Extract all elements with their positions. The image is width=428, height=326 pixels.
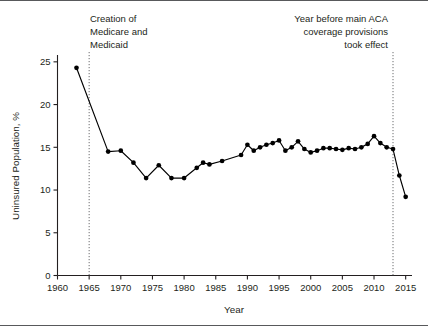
data-point: [264, 142, 269, 147]
data-point: [403, 195, 408, 200]
data-point: [302, 147, 307, 152]
x-tick-label: 1960: [47, 282, 68, 293]
data-point: [327, 146, 332, 151]
x-tick-label: 1970: [110, 282, 131, 293]
y-tick-label: 0: [45, 270, 50, 281]
data-point: [74, 65, 79, 70]
annotation-right-line2: coverage provisions: [304, 26, 389, 37]
axes-group: [58, 55, 413, 276]
annotation-aca-coverage: Year before main ACA coverage provisions…: [294, 13, 388, 50]
y-tick-label: 15: [40, 142, 51, 153]
data-point: [182, 176, 187, 181]
data-point: [106, 149, 111, 154]
x-tick-label: 1965: [79, 282, 100, 293]
data-point: [353, 147, 358, 152]
x-tick-label: 1980: [174, 282, 195, 293]
x-tick-label: 1975: [142, 282, 163, 293]
y-axis-title: Uninsured Population, %: [10, 112, 21, 220]
data-point: [239, 153, 244, 158]
x-tick-label: 1985: [205, 282, 226, 293]
data-point: [308, 150, 313, 155]
data-point: [118, 148, 123, 153]
data-point: [156, 163, 161, 168]
x-axis-title: Year: [224, 304, 245, 315]
figure-container: 0510152025 19601965197019751980198519901…: [0, 0, 428, 326]
x-tick-label: 2005: [332, 282, 353, 293]
data-point: [201, 160, 206, 165]
data-point: [315, 148, 320, 153]
y-tick-label: 10: [40, 184, 51, 195]
data-point: [384, 145, 389, 150]
data-point: [207, 162, 212, 167]
annotation-right-line3: took effect: [344, 39, 388, 50]
x-tick-label: 1990: [237, 282, 258, 293]
data-point: [372, 134, 377, 139]
x-tick-label: 2010: [363, 282, 384, 293]
y-tick-label: 20: [40, 99, 51, 110]
annotation-left-line3: Medicaid: [90, 39, 128, 50]
y-axis-ticks: 0510152025: [40, 56, 58, 281]
annotation-right-line1: Year before main ACA: [294, 13, 388, 24]
y-tick-label: 25: [40, 56, 51, 67]
data-point: [144, 176, 149, 181]
data-point: [378, 141, 383, 146]
x-tick-label: 1995: [268, 282, 289, 293]
data-point: [289, 145, 294, 150]
data-point: [296, 139, 301, 144]
annotation-left-line2: Medicare and: [90, 26, 148, 37]
data-point: [365, 142, 370, 147]
y-tick-label: 5: [45, 227, 50, 238]
data-point: [359, 145, 364, 150]
data-point: [270, 141, 275, 146]
data-point: [321, 146, 326, 151]
x-tick-label: 2000: [300, 282, 321, 293]
data-point: [258, 145, 263, 150]
x-tick-label: 2015: [395, 282, 416, 293]
data-point: [169, 176, 174, 181]
x-axis-ticks: 1960196519701975198019851990199520002005…: [47, 276, 416, 293]
annotation-medicare-medicaid: Creation of Medicare and Medicaid: [90, 13, 148, 50]
data-point: [131, 160, 136, 165]
data-point: [397, 173, 402, 178]
data-point: [220, 159, 225, 164]
data-point: [340, 148, 345, 153]
data-point: [391, 147, 396, 152]
line-chart: 0510152025 19601965197019751980198519901…: [0, 0, 428, 326]
data-point: [194, 165, 199, 170]
data-point: [277, 138, 282, 143]
annotation-left-line1: Creation of: [90, 13, 137, 24]
series-group: [74, 65, 408, 199]
data-point: [346, 146, 351, 151]
data-point: [334, 147, 339, 152]
series-line: [76, 68, 405, 197]
series-markers: [74, 65, 408, 199]
data-point: [245, 142, 250, 147]
data-point: [283, 148, 288, 153]
data-point: [251, 148, 256, 153]
